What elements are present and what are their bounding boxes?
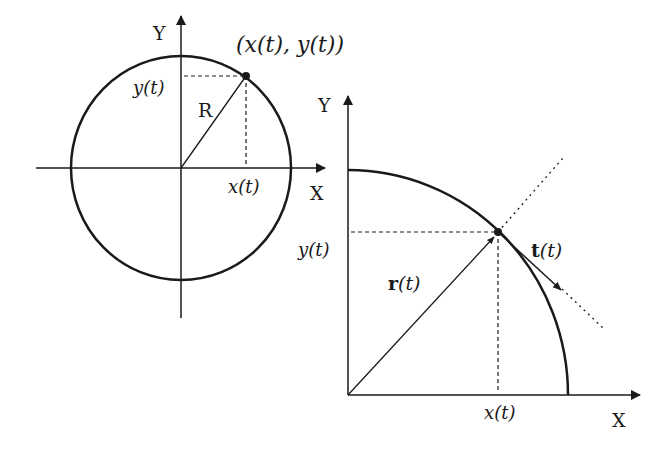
- right-y-axis-label: Y: [317, 94, 331, 116]
- position-vector-arrow: [348, 237, 494, 395]
- right-point-marker: [494, 228, 502, 236]
- left-x-axis-label: X: [310, 182, 324, 204]
- parametric-circle-diagram: Y X R y(t) x(t) (x(t), y(t)) Y X y(t) x(…: [0, 0, 670, 451]
- left-x-proj-label: x(t): [228, 176, 259, 197]
- right-diagram: Y X y(t) x(t) r(t) t(t): [297, 94, 640, 431]
- tangent-vector-label: t(t): [531, 239, 562, 261]
- left-y-proj-label: y(t): [132, 77, 164, 98]
- left-point-marker: [242, 72, 250, 80]
- normal-dotted-line: [498, 158, 563, 232]
- position-vector-label: r(t): [388, 272, 420, 294]
- left-radius-line: [181, 76, 246, 168]
- left-diagram: Y X R y(t) x(t) (x(t), y(t)): [36, 16, 344, 318]
- right-x-axis-label: X: [612, 409, 626, 431]
- tangent-vector-arg: (t): [540, 239, 562, 261]
- tangent-dotted-line: [563, 158, 605, 330]
- point-coordinate-label: (x(t), y(t)): [236, 32, 344, 57]
- position-vector-arg: (t): [398, 272, 420, 294]
- left-y-axis-label: Y: [152, 22, 166, 44]
- tangent-dotted-extension: [562, 289, 605, 330]
- left-radius-label: R: [198, 99, 213, 121]
- right-x-proj-label: x(t): [484, 402, 515, 423]
- tangent-vector-symbol: t: [531, 239, 540, 261]
- quarter-circle-arc: [348, 170, 568, 395]
- right-y-proj-label: y(t): [297, 239, 329, 260]
